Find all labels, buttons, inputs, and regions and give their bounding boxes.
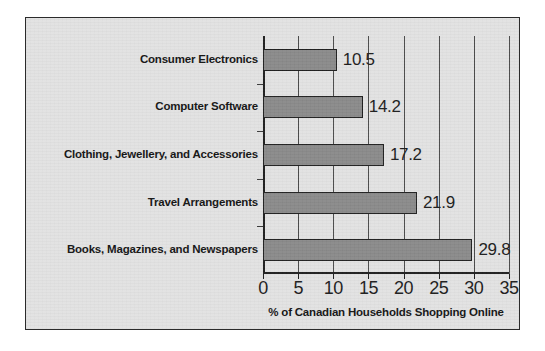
bar-value-label: 10.5 bbox=[343, 49, 375, 71]
bar-value-label: 14.2 bbox=[369, 96, 401, 118]
plot-area: 10.514.217.221.929.8 bbox=[263, 36, 509, 274]
bar bbox=[263, 192, 417, 214]
y-axis-label-1: Computer Software bbox=[155, 100, 258, 113]
x-axis-line bbox=[263, 272, 509, 274]
x-tick-label-15: 15 bbox=[359, 278, 378, 299]
x-tick-label-10: 10 bbox=[324, 278, 343, 299]
bar-value-label: 17.2 bbox=[390, 144, 422, 166]
gridline-30 bbox=[474, 36, 475, 274]
y-axis-label-4: Books, Magazines, and Newspapers bbox=[67, 243, 258, 256]
y-axis-label-0: Consumer Electronics bbox=[140, 53, 258, 66]
bar bbox=[263, 144, 384, 166]
bar-value-label: 29.8 bbox=[478, 239, 510, 261]
y-axis-label-3: Travel Arrangements bbox=[148, 196, 258, 209]
x-tick-label-20: 20 bbox=[394, 278, 413, 299]
x-tick-label-5: 5 bbox=[293, 278, 303, 299]
bar bbox=[263, 96, 363, 118]
bar-value-label: 21.9 bbox=[423, 192, 455, 214]
y-axis-label-2: Clothing, Jewellery, and Accessories bbox=[64, 148, 258, 161]
y-axis-category-labels: Consumer Electronics Computer Software C… bbox=[26, 36, 258, 274]
bar bbox=[263, 49, 337, 71]
x-axis-title: % of Canadian Households Shopping Online bbox=[263, 306, 509, 318]
x-axis-tick-labels: 05101520253035 bbox=[263, 278, 509, 300]
bar bbox=[263, 239, 472, 261]
x-tick-label-0: 0 bbox=[258, 278, 268, 299]
chart-figure: Consumer Electronics Computer Software C… bbox=[25, 17, 520, 330]
x-tick-label-30: 30 bbox=[464, 278, 483, 299]
x-tick-label-25: 25 bbox=[429, 278, 448, 299]
x-tick-label-35: 35 bbox=[499, 278, 518, 299]
